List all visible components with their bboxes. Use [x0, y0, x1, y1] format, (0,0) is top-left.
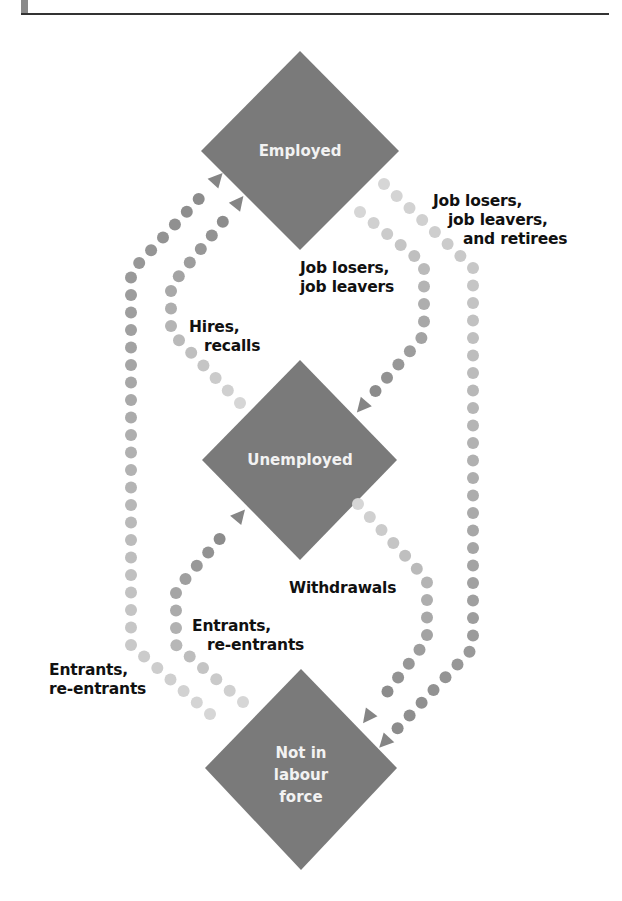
flow-dot: [414, 644, 426, 656]
flow-dot: [467, 472, 479, 484]
flow-dot: [133, 257, 145, 269]
flow-dot: [125, 499, 137, 511]
flow-dot: [165, 285, 177, 297]
flow-dot: [416, 214, 428, 226]
flow-dot: [151, 662, 163, 674]
flow-dot: [181, 206, 193, 218]
flow-label-line: Job losers,: [433, 192, 567, 211]
flow-dot: [170, 587, 182, 599]
flow-dot: [125, 306, 137, 318]
flow-dot: [368, 217, 380, 229]
flow-label-employed-to-nilf: Job losers, job leavers, and retirees: [433, 192, 567, 249]
arrowhead-icon: [208, 173, 223, 189]
flow-dot: [224, 685, 236, 697]
flow-label-line: Withdrawals: [289, 579, 396, 598]
flow-dot: [440, 671, 452, 683]
flow-dot: [202, 546, 214, 558]
flow-dot: [197, 662, 209, 674]
flow-dot: [381, 372, 393, 384]
flow-dot: [125, 569, 137, 581]
arrowhead-icon: [363, 708, 378, 724]
flow-label-line: job leavers: [300, 278, 394, 297]
flow-dot: [210, 673, 222, 685]
flow-dot: [125, 481, 137, 493]
flow-dot: [404, 202, 416, 214]
flow-dot: [395, 239, 407, 251]
flow-dot: [381, 228, 393, 240]
flow-dot: [157, 231, 169, 243]
flow-path-employed-to-unemployed: [354, 206, 430, 412]
flow-label-line: recalls: [189, 337, 260, 356]
flow-dot: [392, 359, 404, 371]
flow-dot: [222, 385, 234, 397]
flow-dot: [467, 577, 479, 589]
flow-label-nilf-to-employed: Entrants, re-entrants: [49, 661, 146, 699]
flow-dot: [421, 611, 433, 623]
flow-dot: [411, 563, 423, 575]
flow-dot: [467, 367, 479, 379]
flow-dot: [421, 629, 433, 641]
employed-label: Employed: [250, 141, 350, 161]
flow-dot: [392, 722, 404, 734]
flow-dot: [376, 524, 388, 536]
flow-dot: [404, 710, 416, 722]
flow-dot: [467, 332, 479, 344]
flow-dot: [467, 437, 479, 449]
flow-dot: [421, 594, 433, 606]
flow-dot: [382, 685, 394, 697]
nilf-line3: force: [251, 786, 351, 808]
flow-dot: [204, 708, 216, 720]
flow-dot: [418, 316, 430, 328]
unemployed-label: Unemployed: [240, 450, 360, 470]
flow-dot: [125, 464, 137, 476]
flow-dot: [467, 455, 479, 467]
flow-dot: [403, 658, 415, 670]
flow-dot: [428, 684, 440, 696]
flow-dot: [404, 345, 416, 357]
flow-dot: [237, 696, 249, 708]
flow-dot: [416, 697, 428, 709]
flow-dot: [467, 525, 479, 537]
arrowhead-icon: [379, 732, 394, 747]
flow-dot: [125, 534, 137, 546]
flow-label-line: re-entrants: [192, 636, 304, 655]
flow-dot: [214, 533, 226, 545]
flow-dot: [178, 685, 190, 697]
flow-dot: [418, 263, 430, 275]
arrowhead-icon: [230, 510, 245, 526]
flow-label-line: re-entrants: [49, 680, 146, 699]
arrowhead-icon: [229, 196, 244, 212]
flow-label-unemployed-to-nilf: Withdrawals: [289, 579, 396, 598]
flow-dot: [408, 250, 420, 262]
flow-dot: [125, 446, 137, 458]
flow-dot: [193, 193, 205, 205]
flow-path-unemployed-to-nilf: [352, 498, 433, 723]
flow-dot: [125, 411, 137, 423]
flow-dot: [165, 320, 177, 332]
flow-dot: [165, 674, 177, 686]
flow-dot: [452, 659, 464, 671]
flow-path-nilf-to-unemployed: [170, 510, 249, 709]
flow-dot: [464, 646, 476, 658]
flow-dot: [125, 376, 137, 388]
flow-dot: [210, 372, 222, 384]
flow-dot: [354, 206, 366, 218]
flow-dot: [125, 604, 137, 616]
flow-dot: [370, 385, 382, 397]
flow-dot: [418, 298, 430, 310]
flow-label-line: Entrants,: [49, 661, 146, 680]
flow-dot: [421, 576, 433, 588]
flow-dot: [125, 271, 137, 283]
flow-dot: [467, 262, 479, 274]
flow-dot: [184, 257, 196, 269]
flow-dot: [234, 397, 246, 409]
flow-dot: [125, 621, 137, 633]
flow-dot: [197, 359, 209, 371]
flow-label-employed-to-unemployed: Job losers, job leavers: [300, 259, 394, 297]
flow-dot: [467, 385, 479, 397]
flow-dot: [125, 586, 137, 598]
flow-dot: [125, 324, 137, 336]
flow-label-line: Hires,: [189, 318, 260, 337]
flow-dot: [191, 560, 203, 572]
flow-dot: [217, 216, 229, 228]
